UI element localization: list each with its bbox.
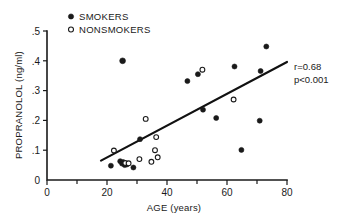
stats-annotation: r=0.68 p<0.001 (294, 61, 329, 85)
x-tick-label-60: 60 (221, 187, 233, 198)
legend-marker-smokers (68, 14, 73, 19)
regression-line (101, 62, 287, 161)
data-point-nonsmoker (200, 67, 205, 72)
data-point-nonsmoker (154, 135, 159, 140)
legend-label-smokers: SMOKERS (79, 11, 129, 22)
data-point-nonsmoker (143, 117, 148, 122)
y-tick-label-2: .2 (32, 115, 41, 126)
data-point-nonsmoker (126, 161, 131, 166)
data-point-smoker (120, 58, 126, 64)
data-point-smoker (195, 72, 200, 77)
data-point-smoker (138, 137, 143, 142)
data-point-smoker (239, 147, 244, 152)
x-axis-tick-labels: 0 20 40 60 80 (44, 187, 293, 198)
y-tick-label-1: .1 (32, 145, 41, 156)
data-point-smoker (264, 44, 269, 49)
data-point-nonsmoker (155, 155, 160, 160)
data-point-smoker (214, 116, 219, 121)
data-point-nonsmoker (153, 148, 158, 153)
data-point-nonsmoker (231, 97, 236, 102)
series-smokers (108, 44, 268, 170)
axis-spines (47, 31, 287, 180)
data-point-smoker (185, 79, 190, 84)
y-tick-label-0: 0 (34, 175, 40, 186)
legend: SMOKERS NONSMOKERS (68, 11, 150, 35)
p-value: p<0.001 (294, 74, 329, 85)
data-point-smoker (201, 107, 206, 112)
x-axis-title: AGE (years) (147, 202, 201, 213)
data-point-smoker (257, 118, 262, 123)
data-point-smoker (108, 163, 113, 168)
data-point-nonsmoker (112, 148, 117, 153)
y-tick-label-3: .3 (32, 85, 41, 96)
correlation-value: r=0.68 (294, 61, 321, 72)
scatter-plot-figure: SMOKERS NONSMOKERS .5 .4 .3 .2 .1 0 (0, 0, 348, 217)
data-point-smoker (258, 69, 263, 74)
legend-label-nonsmokers: NONSMOKERS (79, 24, 151, 35)
y-axis-tick-labels: .5 .4 .3 .2 .1 0 (32, 26, 41, 186)
y-tick-label-4: .4 (32, 56, 41, 67)
data-point-smoker (232, 64, 237, 69)
legend-marker-nonsmokers (69, 27, 74, 32)
x-tick-label-20: 20 (101, 187, 113, 198)
x-tick-label-40: 40 (161, 187, 173, 198)
plot-canvas: SMOKERS NONSMOKERS .5 .4 .3 .2 .1 0 (0, 0, 348, 217)
data-point-smoker (131, 165, 136, 170)
y-tick-label-5: .5 (32, 26, 41, 37)
data-point-nonsmoker (149, 159, 154, 164)
y-axis-title: PROPRANOLOL (ng/ml) (13, 51, 24, 159)
data-point-nonsmoker (137, 157, 142, 162)
x-tick-label-0: 0 (44, 187, 50, 198)
x-tick-label-80: 80 (281, 187, 293, 198)
